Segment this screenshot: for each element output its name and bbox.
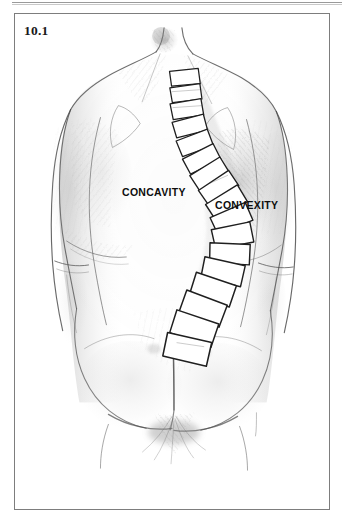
label-concavity: CONCAVITY [122,186,186,198]
nape-hatching [153,30,175,52]
page-top-rule-secondary [12,4,342,5]
figure-frame: 10.1 [14,13,330,510]
vertebra [169,68,200,86]
page-top-rule [12,2,342,3]
label-convexity: CONVEXITY [215,199,278,211]
figure-number-label: 10.1 [24,23,48,39]
scoliosis-illustration [15,14,329,509]
